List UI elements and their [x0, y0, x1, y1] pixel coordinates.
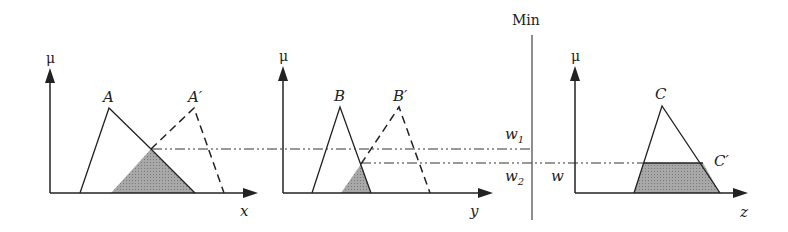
- svg-text:w2: w2: [505, 167, 524, 187]
- x-arrow-icon: [243, 188, 258, 198]
- mu-label-x: μ: [46, 50, 55, 66]
- y-arrow-icon: [478, 188, 493, 198]
- svg-text:w1: w1: [505, 125, 524, 145]
- fuzzy-inference-diagram: μ A A′ x μ B B′ y Min w1 w2 w μ C C′ z: [0, 0, 788, 232]
- axis-label-z: z: [739, 203, 748, 221]
- w1-label: w1: [505, 125, 524, 145]
- mu-arrow-icon: [278, 66, 288, 81]
- b-intersection-shade: [341, 164, 371, 193]
- w2-label: w2: [505, 167, 524, 187]
- mu-arrow-icon: [45, 68, 55, 83]
- mu-label-y: μ: [279, 48, 288, 64]
- set-b-prime: [361, 107, 430, 193]
- mu-label-z: μ: [571, 48, 580, 64]
- a-intersection-shade: [111, 149, 195, 193]
- axis-label-y: y: [469, 202, 479, 220]
- label-b-prime: B′: [392, 87, 408, 105]
- label-a: A: [101, 88, 114, 106]
- axis-label-x: x: [240, 202, 249, 220]
- mu-arrow-icon: [570, 66, 580, 81]
- min-label: Min: [512, 12, 540, 28]
- label-b: B: [333, 87, 345, 105]
- panel-y: [278, 66, 493, 198]
- w-label: w: [551, 167, 564, 185]
- label-c-prime: C′: [714, 152, 729, 170]
- z-arrow-icon: [733, 188, 748, 198]
- c-prime-shade: [634, 163, 720, 193]
- label-a-prime: A′: [186, 88, 203, 106]
- label-c: C: [655, 85, 667, 103]
- panel-x: [45, 68, 258, 198]
